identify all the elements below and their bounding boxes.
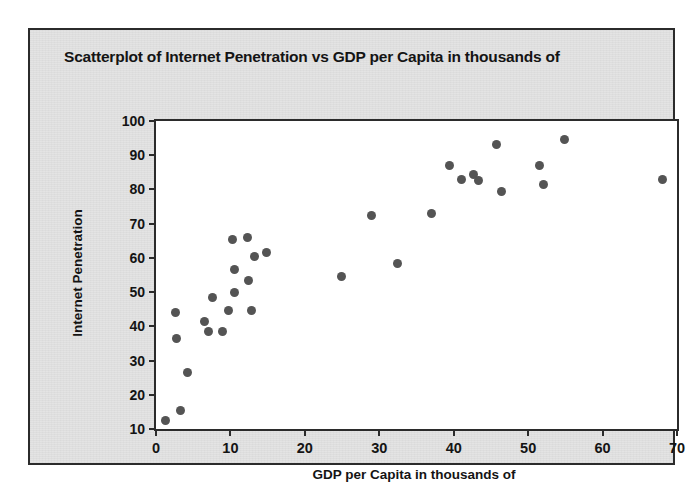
y-tick-mark: [149, 223, 156, 225]
data-point: [244, 276, 253, 285]
data-point: [262, 248, 271, 257]
y-tick-mark: [149, 154, 156, 156]
y-tick-mark: [149, 394, 156, 396]
data-point: [171, 308, 180, 317]
data-point: [230, 265, 239, 274]
y-tick-mark: [149, 360, 156, 362]
data-point: [658, 175, 667, 184]
y-axis-label: Internet Penetration: [70, 209, 85, 337]
data-point: [539, 180, 548, 189]
x-tick-label: 0: [152, 440, 160, 456]
data-point: [243, 233, 252, 242]
x-tick-label: 50: [520, 440, 536, 456]
y-tick-label: 30: [129, 353, 145, 369]
x-tick-mark: [229, 429, 231, 436]
x-tick-mark: [602, 429, 604, 436]
data-point: [204, 327, 213, 336]
chart-panel: Scatterplot of Internet Penetration vs G…: [28, 28, 675, 465]
data-point: [247, 306, 256, 315]
data-point: [535, 161, 544, 170]
x-tick-label: 10: [222, 440, 238, 456]
y-tick-label: 20: [129, 387, 145, 403]
y-tick-label: 50: [129, 284, 145, 300]
y-tick-label: 80: [129, 181, 145, 197]
data-point: [337, 272, 346, 281]
data-point: [161, 416, 170, 425]
y-tick-label: 70: [129, 216, 145, 232]
data-point: [230, 288, 239, 297]
data-point: [445, 161, 454, 170]
y-tick-label: 40: [129, 318, 145, 334]
data-point: [367, 211, 376, 220]
x-tick-mark: [155, 429, 157, 436]
data-point: [228, 235, 237, 244]
x-tick-label: 30: [371, 440, 387, 456]
plot-area: 102030405060708090100 010203040506070: [154, 119, 679, 431]
data-point: [176, 406, 185, 415]
data-point: [492, 140, 501, 149]
x-axis-label: GDP per Capita in thousands of: [312, 467, 515, 482]
y-tick-mark: [149, 325, 156, 327]
data-point: [427, 209, 436, 218]
x-tick-label: 40: [446, 440, 462, 456]
scatterplot-figure: Scatterplot of Internet Penetration vs G…: [0, 0, 695, 495]
x-tick-mark: [676, 429, 678, 436]
y-tick-label: 60: [129, 250, 145, 266]
data-point: [200, 317, 209, 326]
x-tick-mark: [453, 429, 455, 436]
x-tick-mark: [304, 429, 306, 436]
data-point: [224, 306, 233, 315]
x-tick-label: 70: [669, 440, 685, 456]
data-point: [172, 334, 181, 343]
data-point: [457, 175, 466, 184]
x-tick-mark: [378, 429, 380, 436]
data-point: [250, 252, 259, 261]
x-tick-mark: [527, 429, 529, 436]
data-point: [208, 293, 217, 302]
x-tick-label: 20: [297, 440, 313, 456]
y-tick-mark: [149, 120, 156, 122]
y-tick-mark: [149, 291, 156, 293]
y-tick-label: 90: [129, 147, 145, 163]
y-tick-label: 100: [122, 113, 145, 129]
data-point: [560, 135, 569, 144]
x-tick-label: 60: [594, 440, 610, 456]
chart-title: Scatterplot of Internet Penetration vs G…: [64, 48, 664, 66]
data-point: [474, 176, 483, 185]
data-point: [218, 327, 227, 336]
y-tick-label: 10: [129, 421, 145, 437]
y-tick-mark: [149, 257, 156, 259]
y-tick-mark: [149, 188, 156, 190]
data-point: [183, 368, 192, 377]
data-point: [497, 187, 506, 196]
data-point: [393, 259, 402, 268]
